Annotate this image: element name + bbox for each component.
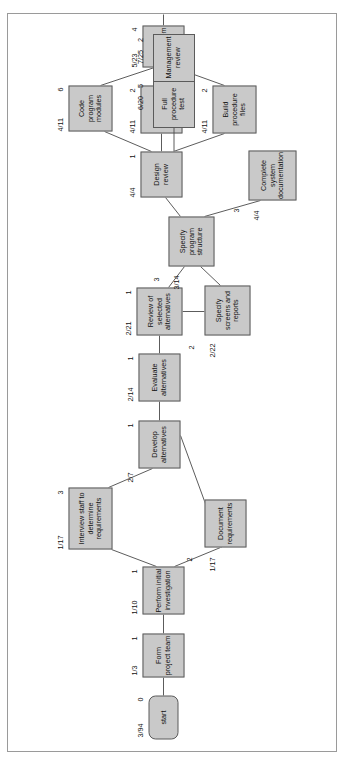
- node-perform-initial-investigation-date: 1/10: [129, 600, 138, 614]
- node-build-test-files-date: 4/11: [127, 120, 136, 133]
- node-start-duration: 0: [135, 697, 144, 701]
- diagram-frame: start 3/94 0 Form project team 1/3 1 Per…: [7, 13, 337, 752]
- node-design-review-duration: 1: [127, 154, 136, 158]
- node-code-program-modules-duration: 6: [55, 87, 64, 91]
- node-develop-alternatives-duration: 1: [125, 423, 134, 427]
- node-specify-program-structure-date: 3/14: [171, 275, 180, 289]
- node-complete-system-documentation-date: 4/4: [251, 210, 260, 220]
- node-review-selected-alternatives-date: 2/21: [123, 321, 132, 335]
- node-complete-system-documentation[interactable]: Complete system documentation: [248, 150, 296, 200]
- node-review-selected-alternatives-label: Review of selected alternatives: [146, 289, 172, 333]
- node-document-requirements-duration: 2: [184, 557, 193, 561]
- node-specify-program-structure[interactable]: Specify program structure: [168, 216, 214, 266]
- node-evaluate-alternatives-label: Evaluate alternatives: [150, 355, 167, 399]
- node-form-project-team-date: 1/3: [129, 665, 138, 675]
- node-complete-system-documentation-duration: 3: [231, 208, 240, 212]
- node-test-system-label: Test system: [159, 27, 168, 65]
- node-specify-program-structure-duration: 3: [151, 277, 160, 281]
- node-build-procedure-files-label: Build procedure files: [221, 87, 247, 131]
- node-test-system[interactable]: Test system: [142, 25, 184, 67]
- edge-design-code: [104, 131, 151, 151]
- node-interview-staff-label: Interview staff to determine requirement…: [77, 489, 103, 547]
- node-design-review-label: Design review: [152, 153, 169, 195]
- node-specify-screens-and-reports-label: Specify screens and reports: [214, 287, 240, 333]
- node-specify-screens-and-reports[interactable]: Specify screens and reports: [204, 285, 250, 335]
- node-test-system-date: 5/23: [129, 53, 138, 67]
- node-document-requirements[interactable]: Document requirements: [204, 499, 246, 547]
- diagram-canvas-wrapper: start 3/94 0 Form project team 1/3 1 Per…: [8, 14, 338, 753]
- node-review-selected-alternatives-duration: 1: [123, 290, 132, 294]
- node-start-date: 3/94: [135, 723, 144, 737]
- node-document-requirements-date: 1/17: [207, 557, 216, 571]
- edge-design-buildproc: [173, 133, 224, 151]
- edge-initial-interview: [111, 549, 156, 566]
- node-evaluate-alternatives[interactable]: Evaluate alternatives: [138, 353, 180, 401]
- node-interview-staff[interactable]: Interview staff to determine requirement…: [68, 487, 112, 549]
- node-build-procedure-files[interactable]: Build procedure files: [212, 85, 256, 133]
- node-evaluate-alternatives-date: 2/14: [125, 387, 134, 401]
- node-form-project-team-duration: 1: [129, 636, 138, 640]
- node-document-requirements-label: Document requirements: [216, 501, 233, 545]
- node-form-project-team[interactable]: Form project team: [142, 633, 184, 677]
- node-start-label: start: [159, 710, 168, 724]
- node-code-program-modules-date: 4/11: [55, 118, 64, 131]
- node-build-test-files-duration: 2: [127, 88, 136, 92]
- node-start[interactable]: start: [148, 695, 178, 739]
- diagram-canvas: start 3/94 0 Form project team 1/3 1 Per…: [8, 14, 338, 753]
- node-perform-initial-investigation-duration: 1: [129, 569, 138, 573]
- node-develop-alternatives-date: 2/7: [125, 472, 134, 482]
- node-design-review[interactable]: Design review: [140, 151, 182, 197]
- node-code-program-modules-label: Code program modules: [77, 87, 103, 129]
- node-specify-screens-and-reports-date: 2/22: [207, 343, 216, 357]
- node-test-system-duration: 4: [129, 27, 138, 31]
- edge-screens-specify: [200, 266, 220, 285]
- node-interview-staff-duration: 3: [55, 490, 64, 494]
- node-perform-initial-investigation[interactable]: Perform initial investigation: [142, 566, 184, 614]
- node-interview-staff-date: 1/17: [55, 535, 64, 549]
- node-review-selected-alternatives[interactable]: Review of selected alternatives: [136, 287, 182, 335]
- node-complete-system-documentation-label: Complete system documentation: [259, 151, 285, 198]
- node-build-procedure-files-date: 4/11: [199, 120, 208, 133]
- node-specify-screens-and-reports-duration: 2: [186, 345, 195, 349]
- node-perform-initial-investigation-label: Perform initial investigation: [154, 568, 171, 612]
- node-evaluate-alternatives-duration: 1: [125, 356, 134, 360]
- node-develop-alternatives[interactable]: Develop alternatives: [138, 420, 180, 468]
- edge-buildproc-test: [174, 67, 224, 85]
- edge-code-test: [100, 67, 154, 85]
- node-build-test-files[interactable]: Build test files: [140, 85, 182, 133]
- node-form-project-team-label: Form project team: [154, 635, 171, 675]
- node-build-procedure-files-duration: 2: [199, 88, 208, 92]
- edge-specify-design: [165, 197, 180, 216]
- node-develop-alternatives-label: Develop alternatives: [150, 422, 167, 466]
- node-specify-program-structure-label: Specify program structure: [178, 218, 204, 264]
- node-design-review-date: 4/4: [127, 187, 136, 197]
- diagram-page: start 3/94 0 Form project team 1/3 1 Per…: [0, 0, 344, 766]
- node-code-program-modules[interactable]: Code program modules: [68, 85, 112, 131]
- node-build-test-files-label: Build test files: [152, 87, 169, 131]
